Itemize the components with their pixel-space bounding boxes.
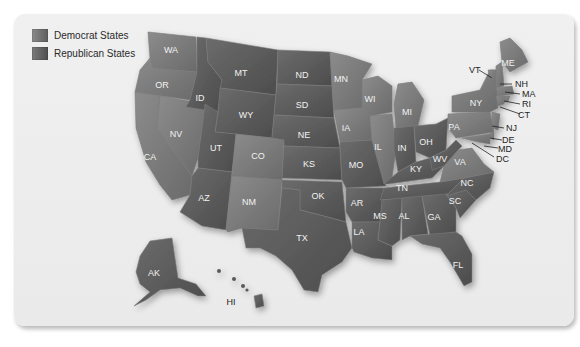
callout-ma: MA (522, 89, 536, 99)
state-hi-island (241, 284, 245, 288)
state-hi-island (217, 269, 221, 273)
label-nv: NV (170, 129, 183, 139)
us-map: WA OR CA NV ID MT WY UT AZ CO NM ND SD N… (0, 0, 580, 347)
label-nc: NC (461, 178, 474, 188)
label-mi: MI (402, 107, 412, 117)
state-ak[interactable] (134, 238, 206, 306)
label-ne: NE (298, 130, 311, 140)
label-in: IN (398, 143, 407, 153)
label-sd: SD (296, 100, 309, 110)
state-fl[interactable] (410, 232, 472, 286)
label-ok: OK (311, 191, 324, 201)
state-ia[interactable] (334, 108, 372, 142)
label-pa: PA (448, 122, 459, 132)
callout-vt: VT (469, 65, 481, 75)
label-me: ME (501, 58, 515, 68)
label-az: AZ (198, 193, 210, 203)
label-ca: CA (144, 152, 157, 162)
label-mn: MN (334, 74, 348, 84)
label-ks: KS (303, 159, 315, 169)
callout-dc: DC (496, 154, 509, 164)
state-hi-island (245, 288, 248, 291)
label-tn: TN (396, 183, 408, 193)
label-or: OR (155, 80, 169, 90)
label-ut: UT (210, 143, 222, 153)
callout-md: MD (498, 144, 512, 154)
label-id: ID (196, 93, 206, 103)
label-wv: WV (433, 154, 448, 164)
label-al: AL (398, 211, 409, 221)
state-ma[interactable] (496, 86, 514, 96)
label-sc: SC (449, 196, 462, 206)
label-ky: KY (410, 164, 422, 174)
label-mt: MT (235, 68, 248, 78)
label-ga: GA (427, 212, 440, 222)
label-il: IL (374, 142, 382, 152)
state-nd[interactable] (277, 50, 332, 86)
label-wi: WI (365, 94, 376, 104)
label-oh: OH (419, 137, 433, 147)
callout-nj: NJ (506, 123, 517, 133)
label-ny: NY (470, 98, 483, 108)
state-hi-island (232, 277, 236, 281)
label-co: CO (251, 151, 265, 161)
label-fl: FL (453, 260, 464, 270)
label-ms: MS (373, 211, 387, 221)
state-hi[interactable] (254, 294, 264, 308)
label-ar: AR (351, 198, 364, 208)
state-ms[interactable] (378, 198, 402, 246)
label-nd: ND (296, 70, 309, 80)
label-wa: WA (164, 45, 178, 55)
label-wy: WY (239, 110, 254, 120)
callout-nh: NH (515, 79, 528, 89)
label-va: VA (454, 157, 465, 167)
label-la: LA (353, 227, 364, 237)
label-mo: MO (349, 160, 364, 170)
callout-ri: RI (522, 99, 531, 109)
state-mi[interactable] (394, 82, 424, 128)
label-tx: TX (296, 233, 308, 243)
label-ia: IA (342, 123, 351, 133)
label-hi: HI (227, 297, 236, 307)
label-nm: NM (242, 197, 256, 207)
callout-ct: CT (518, 110, 530, 120)
label-ak: AK (148, 268, 160, 278)
